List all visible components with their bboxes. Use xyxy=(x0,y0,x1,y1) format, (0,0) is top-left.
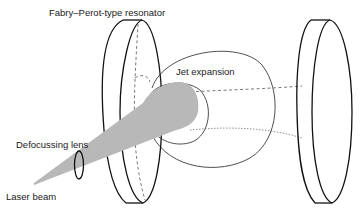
defocussing-lens-label: Defocussing lens xyxy=(16,139,89,150)
resonator-diagram: Fabry–Perot-type resonator Jet expansion… xyxy=(0,0,362,215)
laser-beam-label: Laser beam xyxy=(6,191,56,202)
jet-expansion-label: Jet expansion xyxy=(176,66,235,77)
right-mirror xyxy=(297,20,352,203)
resonator-label: Fabry–Perot-type resonator xyxy=(49,7,165,18)
laser-beam xyxy=(34,82,198,185)
